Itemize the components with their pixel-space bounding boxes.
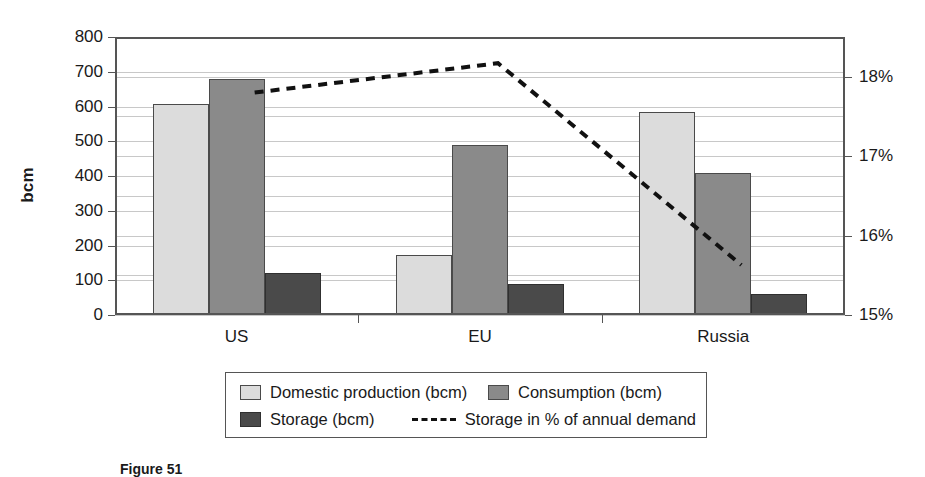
legend-label-consumption: Consumption (bcm)	[518, 383, 662, 402]
x-axis-tick	[602, 315, 603, 323]
legend-swatch-light-icon	[240, 385, 261, 400]
y-axis-tick-label: 0	[51, 306, 103, 323]
x-axis-category-label: EU	[380, 327, 580, 347]
gridline-secondary	[115, 315, 845, 316]
y-axis-tick-label: 600	[51, 98, 103, 115]
plot-frame-top	[115, 37, 845, 39]
legend-row-1: Domestic production (bcm) Consumption (b…	[240, 379, 696, 406]
y2-axis-tick-label: 17%	[859, 147, 919, 164]
y-axis-tick	[108, 315, 115, 316]
y-axis-title-label: bcm	[18, 167, 38, 203]
y-axis-tick	[108, 141, 115, 142]
y2-axis-tick	[845, 236, 852, 237]
legend-label-storage-percent: Storage in % of annual demand	[465, 410, 696, 429]
y-axis-tick	[108, 176, 115, 177]
y2-axis-tick	[845, 156, 852, 157]
y2-axis-tick-label: 16%	[859, 227, 919, 244]
plot-frame-bottom	[115, 313, 845, 315]
legend-item-storage-percent: Storage in % of annual demand	[412, 410, 696, 429]
legend-swatch-medium-icon	[488, 385, 509, 400]
y2-axis-tick	[845, 77, 852, 78]
y-axis-tick	[108, 72, 115, 73]
y-axis-tick-label: 300	[51, 202, 103, 219]
line-series-storage-percent	[115, 37, 845, 315]
y-axis-tick	[108, 211, 115, 212]
legend-item-domestic-production: Domestic production (bcm)	[240, 383, 488, 402]
y-axis-tick	[108, 246, 115, 247]
legend-item-consumption: Consumption (bcm)	[488, 383, 662, 402]
x-axis-category-label: Russia	[623, 327, 823, 347]
figure-caption: Figure 51	[120, 461, 182, 477]
x-axis-category-label: US	[137, 327, 337, 347]
x-axis-tick	[358, 315, 359, 323]
y-axis-tick	[108, 280, 115, 281]
y-axis-tick	[108, 107, 115, 108]
y-axis-tick-label: 200	[51, 237, 103, 254]
plot-area	[115, 37, 845, 315]
chart-legend: Domestic production (bcm) Consumption (b…	[225, 372, 707, 438]
plot-frame-left	[115, 37, 117, 315]
y-axis-tick-label: 400	[51, 167, 103, 184]
y-axis-title: bcm	[8, 130, 48, 240]
legend-dashed-line-icon	[412, 418, 456, 421]
y-axis-tick-label: 500	[51, 132, 103, 149]
legend-label-storage: Storage (bcm)	[270, 410, 375, 429]
legend-label-domestic-production: Domestic production (bcm)	[270, 383, 467, 402]
y-axis-tick-label: 700	[51, 63, 103, 80]
y2-axis-tick-label: 15%	[859, 306, 919, 323]
y-axis-tick-label: 800	[51, 28, 103, 45]
legend-swatch-dark-icon	[240, 412, 261, 427]
y-axis-tick-label: 100	[51, 271, 103, 288]
plot-frame-right	[843, 37, 845, 315]
legend-item-storage: Storage (bcm)	[240, 410, 412, 429]
y2-axis-tick	[845, 315, 852, 316]
y2-axis-tick-label: 18%	[859, 68, 919, 85]
y-axis-tick	[108, 37, 115, 38]
legend-row-2: Storage (bcm) Storage in % of annual dem…	[240, 406, 696, 433]
storage-percent-line	[255, 63, 742, 265]
